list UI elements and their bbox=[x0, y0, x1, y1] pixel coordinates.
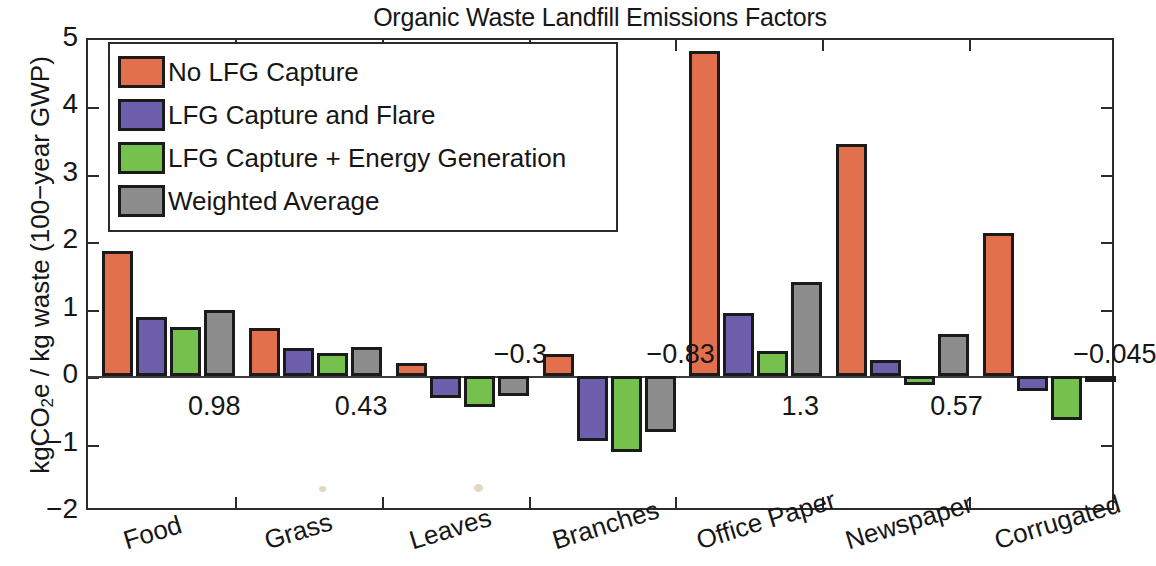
legend-box: No LFG CaptureLFG Capture and FlareLFG C… bbox=[108, 42, 618, 232]
y-tick-label: 4 bbox=[10, 90, 78, 118]
value-annotation: −0.045 bbox=[1073, 341, 1156, 368]
bar[interactable] bbox=[351, 347, 382, 376]
bar[interactable] bbox=[102, 251, 133, 376]
bar[interactable] bbox=[836, 144, 867, 377]
x-tick-mark bbox=[382, 497, 384, 508]
bar[interactable] bbox=[464, 376, 495, 407]
bar[interactable] bbox=[1017, 376, 1048, 391]
bar[interactable] bbox=[317, 353, 348, 377]
legend-swatch bbox=[118, 99, 165, 131]
value-annotation: 0.43 bbox=[335, 393, 388, 420]
bar[interactable] bbox=[689, 51, 720, 376]
x-category-label: Food bbox=[120, 511, 184, 553]
legend-item-label: No LFG Capture bbox=[168, 59, 359, 85]
bar[interactable] bbox=[498, 376, 529, 396]
legend-item-label: LFG Capture + Energy Generation bbox=[168, 145, 566, 171]
bar[interactable] bbox=[204, 310, 235, 376]
legend-swatch bbox=[118, 185, 165, 217]
x-category-label: Leaves bbox=[406, 504, 494, 553]
bar[interactable] bbox=[791, 282, 822, 376]
bar[interactable] bbox=[249, 328, 280, 377]
x-tick-mark bbox=[529, 497, 531, 508]
value-annotation: −0.83 bbox=[647, 341, 715, 368]
y-tick-mark bbox=[1101, 445, 1112, 447]
bar[interactable] bbox=[938, 334, 969, 376]
y-tick-mark bbox=[88, 242, 99, 244]
bar[interactable] bbox=[543, 354, 574, 376]
x-tick-mark bbox=[969, 40, 971, 51]
x-tick-mark bbox=[822, 40, 824, 51]
legend-swatch bbox=[118, 142, 165, 174]
y-tick-label: −2 bbox=[10, 495, 78, 523]
bar[interactable] bbox=[396, 363, 427, 376]
y-tick-mark bbox=[88, 445, 99, 447]
legend-item[interactable]: LFG Capture and Flare bbox=[118, 93, 616, 136]
scan-artifact bbox=[319, 486, 326, 492]
x-tick-mark bbox=[675, 497, 677, 508]
chart-title: Organic Waste Landfill Emissions Factors bbox=[86, 2, 1114, 32]
legend-item[interactable]: LFG Capture + Energy Generation bbox=[118, 136, 616, 179]
y-tick-mark bbox=[88, 310, 99, 312]
x-tick-mark bbox=[235, 497, 237, 508]
y-tick-mark bbox=[1101, 175, 1112, 177]
value-annotation: 1.3 bbox=[781, 393, 819, 420]
y-tick-label: 3 bbox=[10, 158, 78, 186]
legend-item[interactable]: No LFG Capture bbox=[118, 50, 616, 93]
bar[interactable] bbox=[1051, 376, 1082, 420]
y-tick-mark bbox=[1101, 107, 1112, 109]
legend-swatch bbox=[118, 56, 165, 88]
y-tick-mark bbox=[1101, 242, 1112, 244]
bar[interactable] bbox=[170, 327, 201, 376]
bar[interactable] bbox=[645, 376, 676, 432]
value-annotation: −0.3 bbox=[494, 341, 547, 368]
scan-artifact bbox=[474, 484, 483, 492]
y-tick-mark bbox=[1101, 310, 1112, 312]
plot-area: 0.980.43−0.3−0.831.30.57−0.045 No LFG Ca… bbox=[86, 38, 1114, 510]
y-tick-label: 5 bbox=[10, 23, 78, 51]
bar[interactable] bbox=[904, 376, 935, 385]
bar[interactable] bbox=[757, 351, 788, 377]
bar[interactable] bbox=[430, 376, 461, 398]
y-tick-label: 0 bbox=[10, 360, 78, 388]
y-tick-mark bbox=[88, 175, 99, 177]
x-tick-mark bbox=[675, 40, 677, 51]
bar[interactable] bbox=[870, 360, 901, 376]
y-tick-mark bbox=[88, 107, 99, 109]
x-category-label: Grass bbox=[261, 508, 335, 553]
legend-item[interactable]: Weighted Average bbox=[118, 179, 616, 222]
y-tick-label: 2 bbox=[10, 225, 78, 253]
value-annotation: 0.98 bbox=[188, 393, 241, 420]
bar[interactable] bbox=[1085, 376, 1116, 382]
y-axis-label-subscript: 2 bbox=[38, 398, 57, 407]
bar[interactable] bbox=[136, 317, 167, 376]
bar[interactable] bbox=[577, 376, 608, 441]
legend-item-label: LFG Capture and Flare bbox=[168, 102, 435, 128]
y-tick-label: −1 bbox=[10, 428, 78, 456]
bar[interactable] bbox=[611, 376, 642, 452]
value-annotation: 0.57 bbox=[930, 393, 983, 420]
legend-item-label: Weighted Average bbox=[168, 188, 380, 214]
bar[interactable] bbox=[983, 233, 1014, 377]
y-tick-label: 1 bbox=[10, 293, 78, 321]
bar[interactable] bbox=[723, 313, 754, 376]
bar[interactable] bbox=[283, 348, 314, 376]
